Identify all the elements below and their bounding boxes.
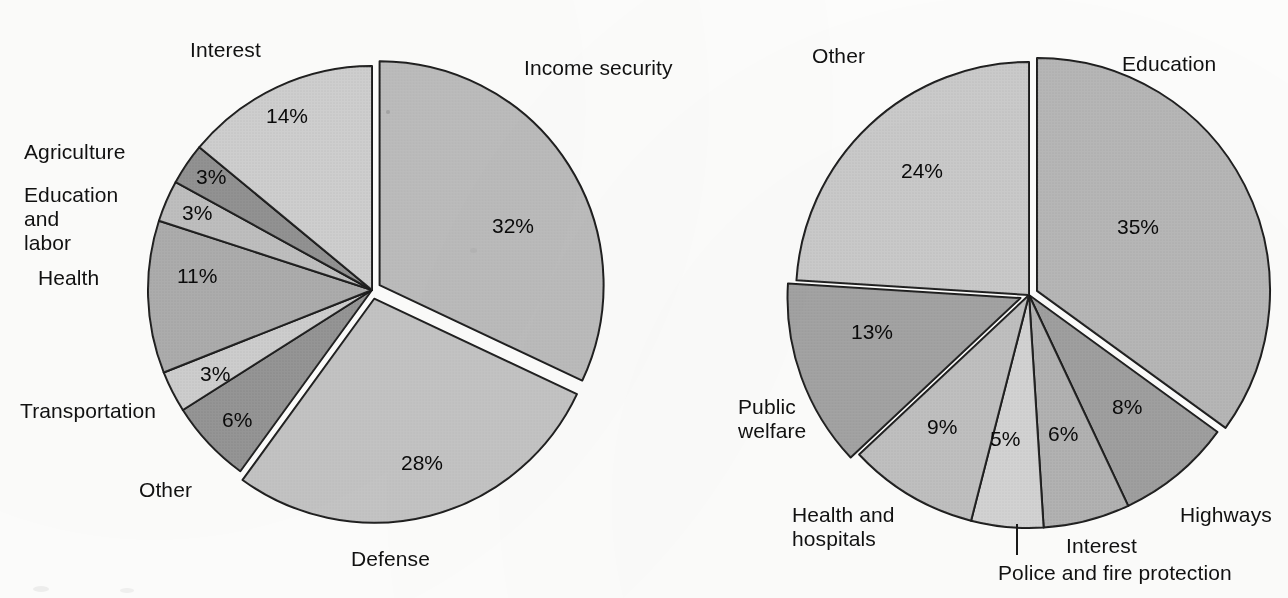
percent-interest-right: 6% <box>1048 423 1078 445</box>
percent-police-and-fire-protection: 5% <box>990 428 1020 450</box>
percent-defense: 28% <box>401 452 443 474</box>
label-police-and-fire-protection: Police and fire protection <box>998 561 1232 585</box>
percent-transportation: 3% <box>200 363 230 385</box>
scan-speck-2 <box>470 248 477 253</box>
label-transportation: Transportation <box>20 399 156 423</box>
percent-education-and-labor: 3% <box>182 202 212 224</box>
percent-other-right: 24% <box>901 160 943 182</box>
label-other-left: Other <box>139 478 192 502</box>
federal-spending-pie <box>148 61 604 523</box>
label-highways: Highways <box>1180 503 1272 527</box>
percent-health: 11% <box>177 265 217 287</box>
label-public-welfare: Public welfare <box>738 395 806 443</box>
percent-public-welfare: 13% <box>851 321 893 343</box>
pie-charts-svg <box>0 0 1288 598</box>
percent-interest-left: 14% <box>266 105 308 127</box>
label-health-and-hospitals: Health and hospitals <box>792 503 895 551</box>
percent-health-and-hospitals: 9% <box>927 416 957 438</box>
label-health: Health <box>38 266 99 290</box>
two-pie-chart-figure: Interest Agriculture Education and labor… <box>0 0 1288 598</box>
label-income-security: Income security <box>524 56 673 80</box>
scan-speck-3 <box>33 586 49 592</box>
state-local-spending-pie <box>788 58 1270 528</box>
percent-highways: 8% <box>1112 396 1142 418</box>
scan-speck-4 <box>120 588 134 593</box>
percent-agriculture: 3% <box>196 166 226 188</box>
label-interest-right: Interest <box>1066 534 1137 558</box>
scan-speck-1 <box>386 110 390 114</box>
label-education: Education <box>1122 52 1216 76</box>
label-agriculture: Agriculture <box>24 140 125 164</box>
label-education-and-labor: Education and labor <box>24 183 118 255</box>
label-defense: Defense <box>351 547 430 571</box>
percent-education: 35% <box>1117 216 1159 238</box>
percent-income-security: 32% <box>492 215 534 237</box>
label-other-right: Other <box>812 44 865 68</box>
label-interest-left: Interest <box>190 38 261 62</box>
percent-other-left: 6% <box>222 409 252 431</box>
